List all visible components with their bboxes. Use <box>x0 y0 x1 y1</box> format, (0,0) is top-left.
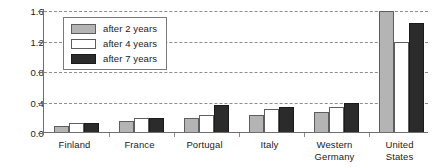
bar-group <box>184 11 229 133</box>
legend-swatch-gray-icon <box>71 24 96 34</box>
bar-united-states-after-7-years <box>409 23 424 133</box>
y-axis-line <box>43 9 44 135</box>
bar-france-after-7-years <box>149 118 164 133</box>
legend-label: after 2 years <box>103 23 157 34</box>
legend-item-after-2-years: after 2 years <box>71 22 157 35</box>
x-label-western-germany: Western Germany <box>302 139 367 162</box>
bar-united-states-after-2-years <box>379 11 394 133</box>
legend-swatch-white-icon <box>71 39 96 49</box>
x-label-line1: Portugal <box>172 139 237 151</box>
bar-western-germany-after-4-years <box>329 107 344 133</box>
x-label-finland: Finland <box>42 139 107 151</box>
x-tick-mark <box>239 133 240 137</box>
gridline <box>44 72 428 73</box>
x-label-line1: Italy <box>237 139 302 151</box>
gridline <box>44 103 428 104</box>
bar-portugal-after-2-years <box>184 118 199 133</box>
bar-group <box>249 11 294 133</box>
x-label-line1: Finland <box>42 139 107 151</box>
x-label-line1: Western <box>302 139 367 151</box>
x-axis-line <box>43 132 428 133</box>
bar-western-germany-after-7-years <box>344 103 359 134</box>
legend-label: after 7 years <box>103 53 157 64</box>
x-label-united-states: United States <box>367 139 432 162</box>
bar-group <box>379 11 424 133</box>
bar-italy-after-7-years <box>279 107 294 133</box>
x-label-line2: States <box>367 151 432 163</box>
x-tick-mark <box>109 133 110 137</box>
x-label-line2: Germany <box>302 151 367 163</box>
x-tick-mark <box>304 133 305 137</box>
bar-italy-after-2-years <box>249 115 264 133</box>
x-tick-mark <box>369 133 370 137</box>
x-label-line1: France <box>107 139 172 151</box>
legend-swatch-black-icon <box>71 54 96 64</box>
bar-portugal-after-4-years <box>199 115 214 133</box>
legend-item-after-7-years: after 7 years <box>71 52 157 65</box>
x-label-line1: United <box>367 139 432 151</box>
x-tick-mark <box>174 133 175 137</box>
legend-label: after 4 years <box>103 38 157 49</box>
x-label-portugal: Portugal <box>172 139 237 151</box>
bar-france-after-4-years <box>134 118 149 133</box>
bar-united-states-after-4-years <box>394 42 409 133</box>
legend: after 2 years after 4 years after 7 year… <box>63 17 167 70</box>
gridline <box>44 11 428 12</box>
x-label-france: France <box>107 139 172 151</box>
bar-western-germany-after-2-years <box>314 112 329 133</box>
x-label-italy: Italy <box>237 139 302 151</box>
bar-group <box>314 11 359 133</box>
legend-item-after-4-years: after 4 years <box>71 37 157 50</box>
bar-portugal-after-7-years <box>214 105 229 133</box>
bar-italy-after-4-years <box>264 109 279 133</box>
bar-chart: 1.6 1.2 0.8 0.4 0.0 <box>0 0 434 168</box>
